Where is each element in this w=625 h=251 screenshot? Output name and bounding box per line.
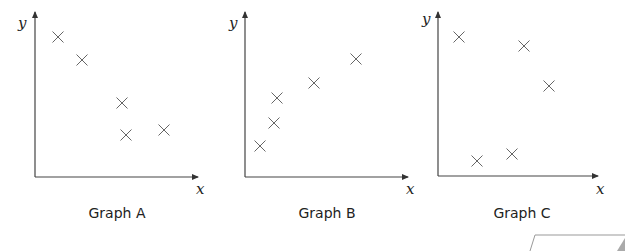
data-point-cross [121,130,132,141]
data-point-cross [309,78,320,89]
y-axis-label: y [228,14,238,32]
data-point-cross [77,55,88,66]
data-point-cross [454,32,465,43]
data-point-cross [53,32,64,43]
data-point-cross [159,125,170,136]
data-point-cross [544,81,555,92]
data-point-cross [472,156,483,167]
graph-title: Graph B [299,205,356,221]
page-corner-tab [530,235,625,251]
x-axis-label: x [406,180,415,198]
graph-a: yxGraph A [17,12,205,221]
scatter-graphs: yxGraph AyxGraph ByxGraph C [0,0,625,251]
graph-c: yxGraph C [421,10,605,221]
data-point-cross [351,54,362,65]
data-point-cross [255,141,266,152]
data-point-cross [507,149,518,160]
y-axis-label: y [421,10,431,28]
graph-title: Graph A [89,205,146,221]
data-point-cross [272,93,283,104]
x-axis-label: x [596,180,605,198]
page-corner-shade [617,238,625,251]
data-point-cross [117,98,128,109]
data-point-cross [519,41,530,52]
x-axis-label: x [196,180,205,198]
y-axis-label: y [17,14,27,32]
graph-title: Graph C [493,205,550,221]
graph-b: yxGraph B [228,12,415,221]
data-point-cross [269,118,280,129]
